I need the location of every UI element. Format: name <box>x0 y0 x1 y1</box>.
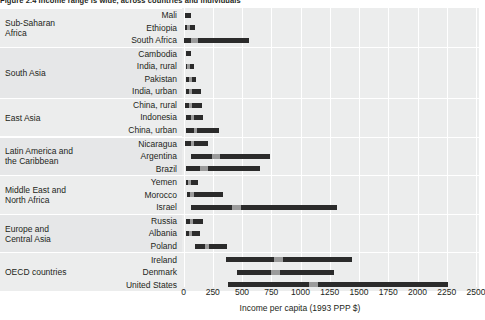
gridline <box>359 8 360 287</box>
x-tick-label: 750 <box>264 287 278 297</box>
median-marker <box>232 205 241 210</box>
gridline <box>242 8 243 287</box>
x-tick-label: 0 <box>181 287 186 297</box>
group-label-latin-america-and-the-caribbean: Latin America and the Caribbean <box>5 146 75 166</box>
chart-frame: Sub-Saharan AfricaSouth AsiaEast AsiaLat… <box>0 8 479 287</box>
country-label: Mali <box>161 10 177 20</box>
median-marker <box>189 231 192 236</box>
gridline <box>271 8 272 287</box>
median-marker <box>190 219 193 224</box>
range-bar <box>191 205 337 210</box>
country-label: China, urban <box>128 125 177 135</box>
x-axis-label-text: Income per capita (1993 PPP $) <box>240 303 361 313</box>
group-separator <box>0 137 479 138</box>
country-label: Israel <box>156 202 177 212</box>
range-bar <box>186 219 203 224</box>
country-label: Cambodia <box>138 49 177 59</box>
range-bar <box>185 103 202 108</box>
country-label: Yemen <box>151 177 177 187</box>
median-marker <box>188 180 191 185</box>
country-label: India, rural <box>137 61 177 71</box>
country-label: Argentina <box>141 151 177 161</box>
x-tick-label: 250 <box>206 287 220 297</box>
median-marker <box>205 244 208 249</box>
country-label: Ireland <box>151 255 177 265</box>
median-marker <box>194 128 197 133</box>
group-label-column: Sub-Saharan AfricaSouth AsiaEast AsiaLat… <box>0 8 75 287</box>
x-tick-label: 2500 <box>467 287 485 297</box>
group-label-oecd-countries: OECD countries <box>5 267 75 277</box>
group-label-europe-and-central-asia: Europe and Central Asia <box>5 224 75 244</box>
median-marker <box>191 115 194 120</box>
country-label: Indonesia <box>140 112 177 122</box>
x-axis-ticks: 02505007501000125015001750200022502500 <box>0 287 480 301</box>
median-marker <box>189 77 192 82</box>
gridline <box>184 8 185 287</box>
range-bar <box>237 270 334 275</box>
country-label: China, rural <box>133 100 177 110</box>
range-bar <box>226 257 352 262</box>
group-separator <box>0 98 479 99</box>
x-tick-label: 500 <box>235 287 249 297</box>
median-marker <box>274 257 283 262</box>
group-label-south-asia: South Asia <box>5 68 75 78</box>
gridline <box>476 8 477 287</box>
x-tick-label: 1500 <box>350 287 369 297</box>
range-bar <box>186 231 200 236</box>
country-label: India, urban <box>132 86 177 96</box>
range-bar <box>186 166 260 171</box>
country-label: Albania <box>149 228 177 238</box>
range-bar <box>185 141 208 146</box>
gridline <box>447 8 448 287</box>
plot-area <box>182 8 479 287</box>
country-label: South Africa <box>131 35 177 45</box>
country-label-column: MaliEthiopiaSouth AfricaCambodiaIndia, r… <box>75 8 182 287</box>
country-label: Ethiopia <box>146 23 177 33</box>
median-marker <box>189 103 192 108</box>
x-tick-label: 2000 <box>408 287 427 297</box>
country-label: Brazil <box>156 164 177 174</box>
range-bar <box>186 51 191 56</box>
group-separator <box>0 214 479 215</box>
gridline <box>418 8 419 287</box>
x-tick-label: 1250 <box>320 287 339 297</box>
country-label: Nicaragua <box>138 139 177 149</box>
figure-title: Figure 2.4 Income range is wide, across … <box>0 0 480 5</box>
country-label: Pakistan <box>144 74 177 84</box>
country-label: Russia <box>151 216 177 226</box>
x-tick-label: 1750 <box>379 287 398 297</box>
group-separator <box>0 252 479 253</box>
country-label: Denmark <box>143 267 177 277</box>
median-marker <box>212 154 220 159</box>
group-label-middle-east-and-north-africa: Middle East and North Africa <box>5 185 75 205</box>
group-separator <box>0 175 479 176</box>
gridline <box>330 8 331 287</box>
group-label-sub-saharan-africa: Sub-Saharan Africa <box>5 18 75 38</box>
country-label: Morocco <box>144 190 177 200</box>
gridline <box>301 8 302 287</box>
gridline <box>388 8 389 287</box>
median-marker <box>189 89 192 94</box>
x-tick-label: 1000 <box>291 287 310 297</box>
median-marker <box>191 141 194 146</box>
x-axis-label: Income per capita (1993 PPP $) <box>0 303 480 313</box>
range-bar <box>191 154 271 159</box>
median-marker <box>271 270 280 275</box>
range-bar <box>195 244 228 249</box>
country-label: Poland <box>151 241 177 251</box>
range-bar <box>185 13 190 18</box>
group-label-east-asia: East Asia <box>5 113 75 123</box>
median-marker <box>190 192 194 197</box>
median-marker <box>187 25 190 30</box>
median-marker <box>191 38 198 43</box>
x-tick-label: 2250 <box>437 287 456 297</box>
range-bar <box>186 128 219 133</box>
group-separator <box>0 47 479 48</box>
range-bar <box>186 115 204 120</box>
median-marker <box>200 166 207 171</box>
median-marker <box>187 64 190 69</box>
